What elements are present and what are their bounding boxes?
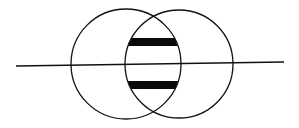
- horizontal-line: [16, 62, 284, 66]
- bottom-bar: [0, 81, 299, 89]
- venn-diagram: [0, 0, 299, 128]
- top-bar: [0, 38, 299, 46]
